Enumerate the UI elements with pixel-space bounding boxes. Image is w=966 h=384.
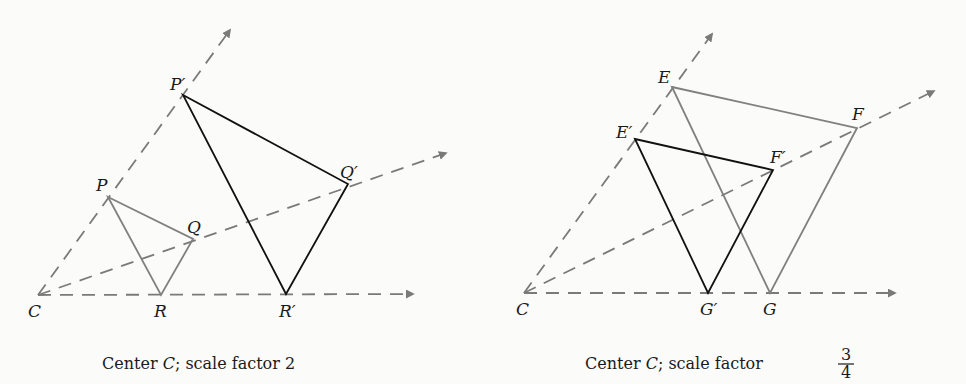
ray-cf [524,91,934,293]
label-e: E [657,67,671,87]
label-c: C [28,301,41,321]
dilation-diagrams: C P Q R P′ Q′ R′ Center C; scale factor … [0,0,966,384]
fraction-numerator: 3 [841,345,851,364]
label-f: F [851,104,865,124]
label-r-prime: R′ [278,301,296,321]
label-r: R [153,301,167,321]
label-q: Q [187,217,201,237]
label-p-prime: P′ [169,74,185,94]
caption-left: Center C; scale factor 2 [102,354,295,373]
triangle-efg-image [635,139,773,293]
label-f-prime: F′ [769,147,786,167]
triangle-pqr-image [183,95,348,294]
panel-scale-three-quarters: C E F G E′ F′ G′ Center C; scale factor … [516,34,934,382]
caption-right: Center C; scale factor [585,354,763,373]
label-g: G [763,299,777,319]
panel-scale-2: C P Q R P′ Q′ R′ Center C; scale factor … [28,30,446,373]
ray-cr [38,294,413,295]
label-c: C [516,299,529,319]
label-p: P [95,175,108,195]
fraction-denominator: 4 [841,363,851,382]
label-g-prime: G′ [700,299,718,319]
ray-cp [38,30,230,295]
ray-ce [524,34,712,293]
label-e-prime: E′ [615,122,632,142]
triangle-pqr [108,197,193,295]
label-q-prime: Q′ [340,162,358,182]
triangle-efg [672,87,857,293]
